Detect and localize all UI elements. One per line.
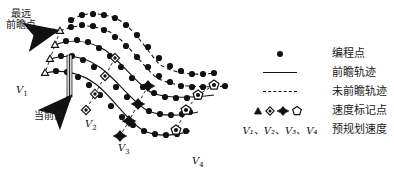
legend-label-preplanned-velocity: 预规划速度 xyxy=(328,124,387,136)
curve-label-v3: V3 xyxy=(118,142,130,156)
legend-label-lookahead-trajectory: 前瞻轨迹 xyxy=(328,67,376,79)
curve-label-v2: V2 xyxy=(85,118,97,132)
curve-label-v1: V1 xyxy=(16,84,28,98)
legend-item-lookahead-trajectory: 前瞻轨迹 xyxy=(232,63,392,82)
series-lookahead-trajectory-V2 xyxy=(55,37,214,101)
cross-diamond-icon xyxy=(277,106,289,115)
pentagon-icon xyxy=(293,106,302,114)
diamond-icon-center xyxy=(269,109,272,112)
dashed-line-icon xyxy=(232,82,328,101)
triangle-icon xyxy=(254,107,261,114)
velocity-list-icon: V₁、V₂、V₃、V₄ xyxy=(232,120,328,139)
legend-item-preplanned-velocity: V₁、V₂、V₃、V₄ 预规划速度 xyxy=(232,120,392,139)
farthest-lookahead-annotation: 最远 前瞻点 xyxy=(6,8,36,30)
legend-item-speed-marker: 速度标记点 xyxy=(232,101,392,120)
pentagon-markers xyxy=(171,80,219,134)
velocity-list-text: V₁、V₂、V₃、V₄ xyxy=(243,122,318,137)
legend-item-un-lookahead-trajectory: 未前瞻轨迹 xyxy=(232,82,392,101)
legend: 编程点 前瞻轨迹 未前瞻轨迹 xyxy=(232,44,392,139)
current-point-annotation: 当前点 xyxy=(34,110,64,121)
farthest-lookahead-line2: 前瞻点 xyxy=(6,19,36,30)
legend-label-programmed-point: 编程点 xyxy=(328,48,365,60)
current-point-arrow xyxy=(59,98,69,109)
solid-line-icon xyxy=(232,63,328,82)
current-point-bar xyxy=(67,55,72,97)
series-lookahead-trajectory-V1 xyxy=(60,22,228,90)
legend-item-programmed-point: 编程点 xyxy=(232,44,392,63)
legend-label-speed-marker: 速度标记点 xyxy=(328,105,387,117)
filled-circle-icon xyxy=(232,44,328,63)
farthest-lookahead-arrow xyxy=(41,31,55,34)
legend-label-un-lookahead-trajectory: 未前瞻轨迹 xyxy=(328,86,387,98)
curve-label-v4: V4 xyxy=(192,155,204,169)
speed-marker-shapes-icon xyxy=(232,101,328,120)
farthest-lookahead-line1: 最远 xyxy=(6,8,36,19)
